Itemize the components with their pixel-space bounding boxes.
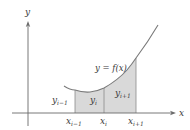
tick-label-x-i-plus-1: xi+1 xyxy=(128,116,144,127)
tick-label-x-i-minus-1: xi−1 xyxy=(66,116,82,127)
y-axis-label: y xyxy=(24,7,31,17)
tick-label-x-i: xi xyxy=(100,116,107,127)
function-curve xyxy=(64,25,158,92)
curve-label: y = f(x) xyxy=(94,63,127,73)
strip-label-y-i-minus-1: yi−1 xyxy=(51,95,68,106)
x-axis-label: x xyxy=(179,108,184,118)
riemann-sum-diagram: y x y = f(x) yi−1 yi yi+1 xi−1 xi xi+1 xyxy=(0,0,190,130)
